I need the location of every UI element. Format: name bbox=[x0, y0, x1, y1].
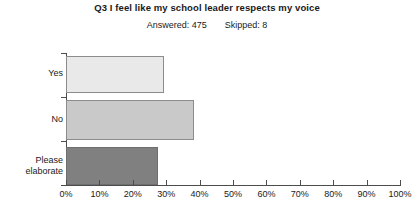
x-axis-label-10pct: 10% bbox=[90, 189, 108, 200]
plot-area bbox=[66, 53, 400, 185]
x-tick-50pct bbox=[233, 180, 234, 186]
y-tick-2 bbox=[61, 141, 67, 142]
y-tick-0 bbox=[61, 53, 67, 54]
x-tick-70pct bbox=[300, 180, 301, 186]
y-axis-label-no: No bbox=[51, 114, 63, 125]
x-tick-60pct bbox=[266, 180, 267, 186]
x-tick-0pct bbox=[66, 180, 67, 186]
x-axis-label-20pct: 20% bbox=[124, 189, 142, 200]
x-tick-20pct bbox=[133, 180, 134, 186]
x-tick-40pct bbox=[200, 180, 201, 186]
x-axis-label-80pct: 80% bbox=[324, 189, 342, 200]
x-axis-label-60pct: 60% bbox=[257, 189, 275, 200]
x-axis-label-30pct: 30% bbox=[157, 189, 175, 200]
bar-no[interactable] bbox=[66, 100, 194, 140]
chart-subtitle: Answered: 475Skipped: 8 bbox=[0, 19, 414, 31]
y-tick-1 bbox=[61, 97, 67, 98]
answered-count: Answered: 475 bbox=[147, 20, 207, 30]
x-tick-80pct bbox=[333, 180, 334, 186]
x-tick-100pct bbox=[400, 180, 401, 186]
x-tick-90pct bbox=[367, 180, 368, 186]
x-axis-label-50pct: 50% bbox=[224, 189, 242, 200]
x-tick-10pct bbox=[99, 180, 100, 186]
x-axis-label-100pct: 100% bbox=[388, 189, 411, 200]
x-tick-30pct bbox=[166, 180, 167, 186]
bar-please-elaborate[interactable] bbox=[66, 147, 158, 185]
x-axis-label-0pct: 0% bbox=[59, 189, 72, 200]
x-axis-label-70pct: 70% bbox=[291, 189, 309, 200]
y-axis-label-please-elaborate: Please elaborate bbox=[25, 155, 63, 177]
y-axis-label-yes: Yes bbox=[48, 68, 63, 79]
x-axis-label-40pct: 40% bbox=[191, 189, 209, 200]
chart-title: Q3 I feel like my school leader respects… bbox=[0, 2, 414, 14]
skipped-count: Skipped: 8 bbox=[225, 20, 268, 30]
bar-yes[interactable] bbox=[66, 56, 164, 93]
x-axis-label-90pct: 90% bbox=[358, 189, 376, 200]
